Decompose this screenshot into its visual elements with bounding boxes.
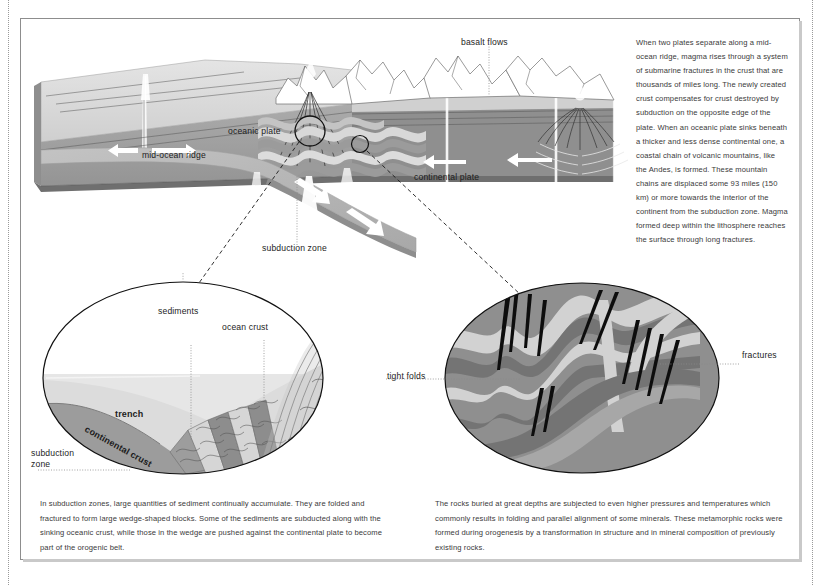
label-subduction-zone: subduction zone: [262, 243, 327, 253]
label-ocean-crust: ocean crust: [222, 322, 268, 332]
detail-oval-left: [43, 282, 396, 474]
label-basalt-flows: basalt flows: [461, 37, 508, 47]
detail-oval-right: [445, 283, 719, 474]
label-continental-plate: continental plate: [414, 172, 479, 182]
caption-metamorphic-rocks: The rocks buried at great depths are sub…: [435, 497, 795, 555]
label-mid-ocean-ridge: mid-ocean ridge: [142, 150, 206, 160]
side-explanatory-text: When two plates separate along a mid-oce…: [636, 36, 788, 247]
label-tight-folds: tight folds: [387, 371, 425, 381]
caption-subduction-zones: In subduction zones, large quantities of…: [40, 497, 388, 555]
mountain-range: [276, 56, 614, 104]
figure-page: basalt flows oceanic plate mid-ocean rid…: [0, 0, 822, 585]
label-subduction-zone-detail: subduction zone: [31, 448, 87, 470]
label-oceanic-plate: oceanic plate: [228, 126, 281, 136]
label-sediments: sediments: [158, 306, 199, 316]
label-trench: trench: [115, 409, 143, 419]
label-fractures: fractures: [742, 350, 777, 360]
